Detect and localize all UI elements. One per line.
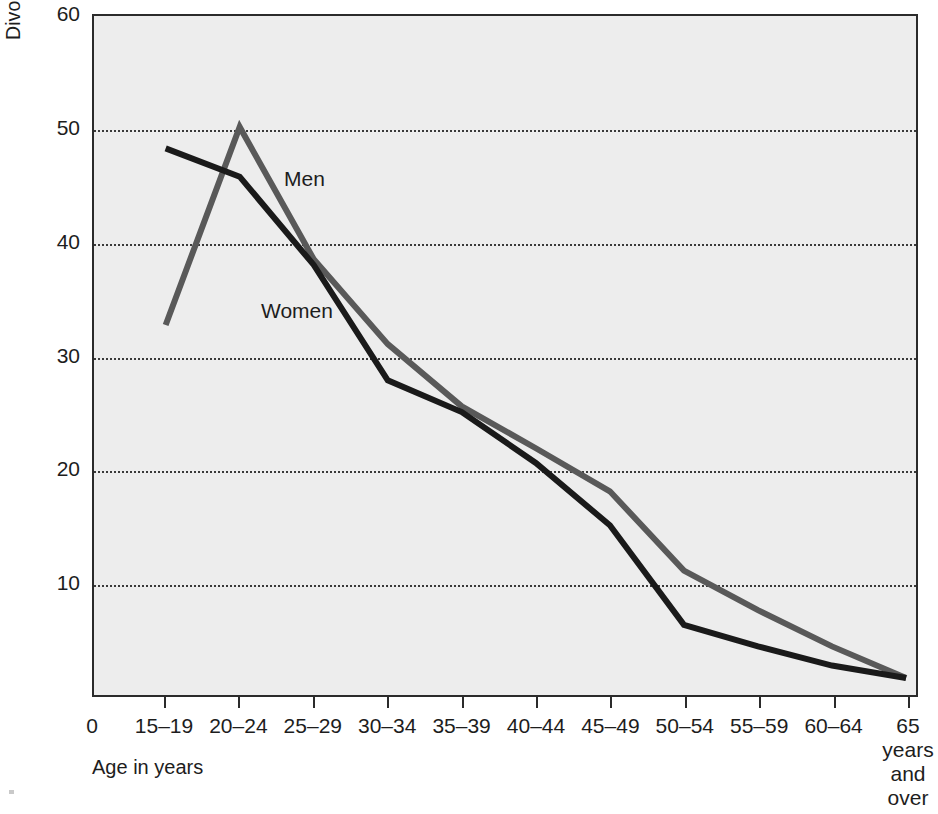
x-axis-tick [536, 697, 538, 708]
x-axis-tick-label: 20–24 [209, 714, 267, 738]
y-axis-tick-label: 60 [22, 3, 80, 24]
series-lines [94, 16, 916, 695]
series-label-women: Women [261, 300, 333, 321]
series-line-men [166, 127, 906, 678]
x-axis-tick [387, 697, 389, 708]
x-axis-tick [238, 697, 240, 708]
y-axis-tick-label: 40 [22, 231, 80, 252]
divorce-rate-line-chart: Divorces per 1,000 married population 10… [0, 0, 938, 814]
x-axis-tick [834, 697, 836, 708]
series-line-women [166, 148, 906, 678]
page-speck [9, 790, 14, 794]
plot-inner [94, 16, 916, 695]
y-axis-tick-label: 20 [22, 458, 80, 479]
x-axis-tick-label: 30–34 [358, 714, 416, 738]
x-axis-title: Age in years [92, 755, 203, 779]
x-axis-tick [759, 697, 761, 708]
x-axis-tick-label: 15–19 [135, 714, 193, 738]
x-axis-tick-label: 65yearsandover [877, 714, 938, 810]
x-axis-tick [462, 697, 464, 708]
x-axis-tick-label: 55–59 [730, 714, 788, 738]
x-axis-tick-label: 35–39 [432, 714, 490, 738]
y-axis-tick-label: 50 [22, 117, 80, 138]
plot-area [92, 14, 918, 697]
x-axis-origin-label: 0 [86, 714, 98, 738]
y-axis-tick-label: 10 [22, 572, 80, 593]
x-axis-tick-label: 50–54 [656, 714, 714, 738]
x-axis-tick [685, 697, 687, 708]
x-axis-tick-label: 40–44 [507, 714, 565, 738]
series-label-men: Men [284, 168, 325, 189]
x-axis-tick [610, 697, 612, 708]
x-axis-tick-label: 25–29 [284, 714, 342, 738]
y-axis-tick-label: 30 [22, 345, 80, 366]
x-axis-tick [908, 697, 910, 708]
x-axis-tick-label: 60–64 [804, 714, 862, 738]
x-axis-tick-label: 45–49 [581, 714, 639, 738]
x-axis-tick [164, 697, 166, 708]
x-axis-tick [313, 697, 315, 708]
